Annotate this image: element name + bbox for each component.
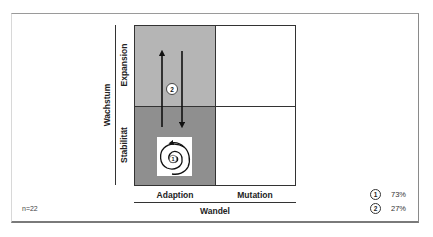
legend-item-1: 1 73% <box>370 189 406 200</box>
legend-marker-2-icon: 2 <box>370 203 381 214</box>
legend-marker-1-icon: 1 <box>370 189 381 200</box>
column-label-adaption: Adaption <box>157 190 194 200</box>
marker-1: 1 <box>169 155 177 163</box>
legend-item-2: 2 27% <box>370 203 406 214</box>
legend-value-1: 73% <box>391 190 406 199</box>
sample-size-label: n=22 <box>22 205 38 212</box>
svg-text:2: 2 <box>170 86 174 93</box>
marker-2: 2 <box>167 84 178 95</box>
column-label-mutation: Mutation <box>237 190 272 200</box>
x-axis-line <box>134 202 296 203</box>
legend-value-2: 27% <box>391 204 406 213</box>
x-axis-title: Wandel <box>200 206 230 216</box>
svg-text:1: 1 <box>171 156 174 162</box>
